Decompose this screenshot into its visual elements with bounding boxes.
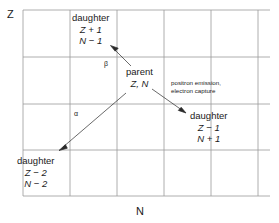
annotation-ec-line1: positron emission, (171, 79, 221, 86)
node-parent: parent Z, N (126, 66, 153, 89)
y-axis-label: Z (7, 8, 14, 20)
node-daughter-alpha-title: daughter (17, 155, 55, 167)
node-daughter-ec-title: daughter (190, 110, 228, 122)
annotation-alpha-symbol: α (74, 110, 78, 117)
node-daughter-beta-title: daughter (72, 12, 110, 24)
node-parent-title: parent (126, 66, 153, 78)
node-daughter-beta-z: Z + 1 (72, 24, 110, 36)
chart-grid (0, 0, 279, 223)
annotation-positron-emission-electron-capture: positron emission, electron capture (171, 79, 221, 95)
annotation-beta-symbol: β (104, 60, 108, 67)
node-daughter-alpha: daughter Z − 2 N − 2 (17, 155, 55, 190)
x-axis-label: N (136, 205, 144, 217)
beta-decay-arrow (111, 46, 132, 67)
node-daughter-beta-n: N − 1 (72, 35, 110, 47)
node-daughter-beta: daughter Z + 1 N − 1 (72, 12, 110, 47)
nuclide-decay-chart: Z N daughter Z + 1 N − 1 parent Z, N dau… (0, 0, 279, 223)
annotation-ec-line2: electron capture (171, 87, 215, 94)
node-daughter-ec-z: Z − 1 (190, 122, 228, 134)
node-daughter-alpha-z: Z − 2 (17, 167, 55, 179)
node-daughter-ec-n: N + 1 (190, 133, 228, 145)
node-parent-zn: Z, N (126, 78, 153, 90)
node-daughter-electron-capture: daughter Z − 1 N + 1 (190, 110, 228, 145)
alpha-decay-arrow (59, 93, 126, 151)
node-daughter-alpha-n: N − 2 (17, 178, 55, 190)
